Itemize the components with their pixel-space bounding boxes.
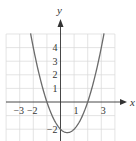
- x-axis-label: x: [129, 96, 135, 108]
- parabola-graph: x y −3−213 4321−2: [0, 0, 136, 141]
- y-tick-label: 2: [53, 69, 58, 80]
- axes: x y: [6, 4, 135, 141]
- y-tick-label: 3: [53, 56, 58, 67]
- x-axis-arrow-icon: [120, 99, 127, 105]
- parabola-curve: [31, 33, 104, 132]
- x-tick-labels: −3−213: [13, 105, 105, 116]
- y-tick-label: 4: [53, 42, 58, 53]
- x-tick-label: −3: [13, 105, 24, 116]
- y-tick-label: 1: [53, 83, 58, 94]
- y-axis-label: y: [56, 4, 62, 16]
- x-tick-label: 1: [74, 105, 79, 116]
- y-axis-arrow-icon: [58, 19, 64, 27]
- x-tick-label: −2: [27, 105, 38, 116]
- y-tick-label: −2: [47, 124, 58, 135]
- x-tick-label: 3: [101, 105, 106, 116]
